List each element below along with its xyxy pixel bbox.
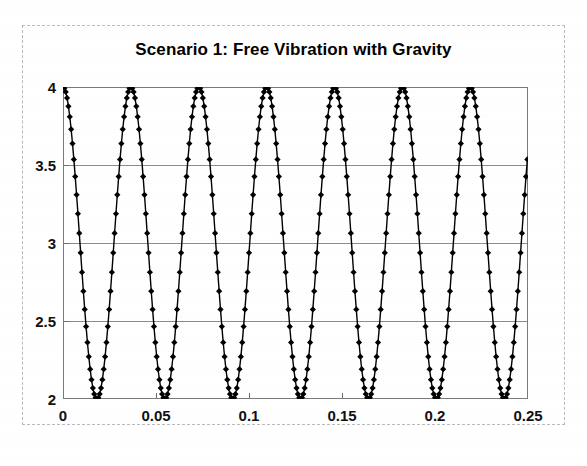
x-tick-label-0_25: 0.25 bbox=[513, 407, 542, 424]
plot-area: 4 3.5 3 2.5 2 0 0.05 0.1 0.15 0.2 0.25 bbox=[63, 87, 528, 399]
chart-frame: Scenario 1: Free Vibration with Gravity bbox=[22, 25, 565, 425]
y-tick-label-2_5: 2.5 bbox=[35, 313, 56, 330]
x-tick-label-0_05: 0.05 bbox=[141, 407, 170, 424]
y-tick-label-3: 3 bbox=[48, 235, 56, 252]
x-tick-label-0: 0 bbox=[59, 407, 67, 424]
x-tick-label-0_1: 0.1 bbox=[239, 407, 260, 424]
chart-screenshot: Scenario 1: Free Vibration with Gravity bbox=[0, 0, 587, 466]
chart-title: Scenario 1: Free Vibration with Gravity bbox=[23, 40, 564, 60]
y-tick-label-4: 4 bbox=[48, 79, 56, 96]
x-tick-label-0_15: 0.15 bbox=[327, 407, 356, 424]
y-tick-label-3_5: 3.5 bbox=[35, 157, 56, 174]
plot-svg bbox=[63, 87, 528, 399]
y-tick-label-2: 2 bbox=[48, 391, 56, 408]
x-tick-label-0_2: 0.2 bbox=[425, 407, 446, 424]
